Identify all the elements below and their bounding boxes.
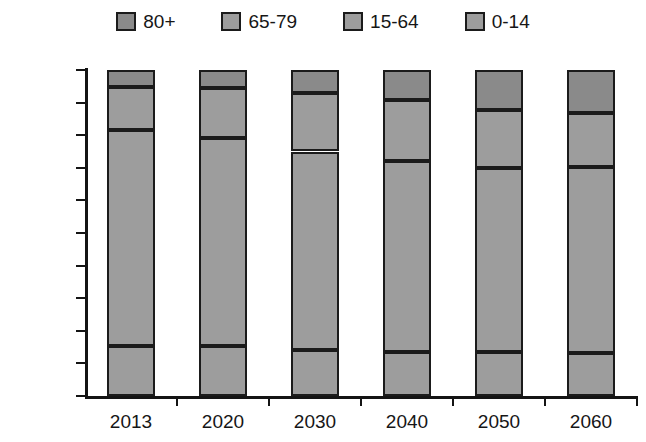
legend-label-65-79: 65-79 — [248, 12, 297, 31]
y-tick-mark — [76, 395, 85, 397]
y-tick-mark — [76, 102, 85, 104]
x-tick-label: 2060 — [570, 412, 612, 431]
x-tick-label: 2030 — [294, 412, 336, 431]
y-tick-mark — [76, 69, 85, 71]
y-tick-mark — [76, 265, 85, 267]
x-tick-mark — [544, 396, 546, 406]
legend-label-0-14: 0-14 — [492, 12, 530, 31]
x-tick-mark — [360, 396, 362, 406]
y-tick-mark — [76, 330, 85, 332]
y-tick-mark — [76, 167, 85, 169]
legend-item-0-14: 0-14 — [465, 12, 530, 31]
x-tick-label: 2040 — [386, 412, 428, 431]
x-tick-mark — [636, 396, 638, 406]
legend-label-15-64: 15-64 — [370, 12, 419, 31]
x-tick-mark — [268, 396, 270, 406]
legend-item-15-64: 15-64 — [343, 12, 419, 31]
x-tick-label: 2013 — [110, 412, 152, 431]
x-tick-label: 2050 — [478, 412, 520, 431]
x-tick-label: 2020 — [202, 412, 244, 431]
x-tick-mark — [176, 396, 178, 406]
stacked-bar-chart: 80+ 65-79 15-64 0-14 0%10%20%30%40%50%60… — [0, 0, 646, 442]
legend-swatch-65-79 — [221, 12, 241, 31]
x-tick-mark — [452, 396, 454, 406]
y-tick-mark — [76, 199, 85, 201]
plot-area: 0%10%20%30%40%50%60%70%80%90%100% 201320… — [85, 70, 637, 396]
legend-swatch-0-14 — [465, 12, 485, 31]
legend-item-65-79: 65-79 — [221, 12, 297, 31]
chart-legend: 80+ 65-79 15-64 0-14 — [0, 12, 646, 31]
legend-swatch-15-64 — [343, 12, 363, 31]
legend-swatch-80plus — [116, 12, 136, 31]
y-tick-mark — [76, 362, 85, 364]
legend-label-80plus: 80+ — [143, 12, 175, 31]
legend-item-80plus: 80+ — [116, 12, 175, 31]
y-tick-mark — [76, 232, 85, 234]
y-tick-mark — [76, 297, 85, 299]
x-axis-ticks: 201320202030204020502060 — [85, 70, 637, 396]
y-tick-mark — [76, 134, 85, 136]
